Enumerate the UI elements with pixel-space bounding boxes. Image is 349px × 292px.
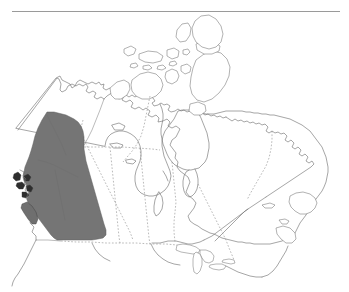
small-arctic-island-d: [130, 63, 138, 68]
us-east-coast-detail: [262, 246, 288, 277]
prince-of-wales-island: [165, 69, 179, 84]
us-pacific-coast: [12, 240, 36, 286]
small-arctic-island-b: [157, 65, 166, 70]
lake-erie: [209, 264, 226, 270]
southampton-island: [189, 102, 206, 115]
cornwallis-island: [183, 49, 190, 55]
figure-root: [0, 0, 349, 292]
bathurst-island: [167, 48, 179, 59]
somerset-island: [181, 64, 191, 74]
axel-heiberg-island: [176, 23, 191, 42]
baffin-island: [190, 51, 230, 102]
lake-michigan: [193, 252, 202, 274]
small-arctic-island-a: [143, 65, 152, 70]
canada-map-svg: [0, 0, 349, 292]
prince-patrick-island: [124, 46, 136, 56]
victoria-island: [131, 72, 163, 99]
us-inland-detail-c: [226, 266, 262, 277]
map-stage: [0, 0, 349, 292]
small-arctic-island-c: [169, 61, 177, 66]
melville-island: [139, 51, 163, 63]
lake-ontario: [222, 259, 235, 264]
banks-island: [110, 80, 130, 99]
